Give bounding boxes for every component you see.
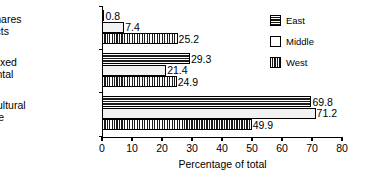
x-axis-tick (131, 137, 132, 141)
bar-value-label: 69.8 (312, 97, 332, 108)
legend-label-west: West (286, 57, 307, 68)
bar-middle-2 (102, 108, 316, 119)
x-axis-tick-label: 70 (297, 142, 327, 154)
bar-value-label: 7.4 (125, 22, 140, 33)
legend-label-middle: Middle (286, 36, 314, 47)
category-label-1: Rents for fixedmoney rental (0, 57, 33, 80)
bar-east-2 (102, 96, 311, 107)
bar-value-label: 24.9 (178, 77, 198, 88)
x-axis-tick-label: 30 (177, 142, 207, 154)
y-axis-tick (99, 49, 103, 50)
x-axis-tick (311, 137, 312, 141)
x-axis-tick (281, 137, 282, 141)
category-label-2: Not on agriculturalschedule (0, 100, 33, 123)
bar-chart: Rents for sharesof products Rents for fi… (0, 0, 374, 186)
legend-swatch-middle-icon (270, 36, 281, 47)
bar-west-2 (102, 119, 252, 130)
x-axis-tick (191, 137, 192, 141)
bar-east-0 (102, 10, 104, 21)
bar-value-label: 0.8 (105, 11, 120, 22)
legend-item-east: East (270, 10, 370, 31)
x-axis-tick (341, 137, 342, 141)
legend-item-west: West (270, 52, 370, 73)
category-label-line: Not on agricultural (0, 100, 33, 112)
bar-west-0 (102, 33, 178, 44)
bar-value-label: 49.9 (253, 120, 273, 131)
x-axis-tick-label: 80 (327, 142, 357, 154)
x-axis-tick-label: 0 (87, 142, 117, 154)
x-axis-tick (161, 137, 162, 141)
category-label-line: schedule (0, 112, 33, 124)
bar-middle-0 (102, 22, 124, 33)
legend: East Middle West (270, 10, 370, 73)
y-axis-tick (99, 92, 103, 93)
bar-value-label: 25.2 (179, 34, 199, 45)
legend-swatch-west-icon (270, 57, 281, 68)
bar-value-label: 71.2 (317, 108, 337, 119)
y-axis-tick (99, 6, 103, 7)
category-label-0: Rents for sharesof products (0, 14, 33, 37)
category-label-line: money rental (0, 69, 33, 81)
legend-label-east: East (286, 15, 305, 26)
x-axis-tick (101, 137, 102, 141)
x-axis-title: Percentage of total (102, 158, 343, 170)
bar-value-label: 29.3 (191, 54, 211, 65)
bar-east-1 (102, 53, 190, 64)
bar-middle-1 (102, 65, 166, 76)
x-axis-tick-label: 40 (207, 142, 237, 154)
bar-west-1 (102, 76, 177, 87)
x-axis-tick-label: 20 (147, 142, 177, 154)
x-axis-tick (221, 137, 222, 141)
bar-value-label: 21.4 (167, 65, 187, 76)
x-axis-tick-label: 50 (237, 142, 267, 154)
category-label-line: of products (0, 26, 33, 38)
legend-item-middle: Middle (270, 31, 370, 52)
legend-swatch-east-icon (270, 15, 281, 26)
x-axis-tick-label: 60 (267, 142, 297, 154)
x-axis-tick-label: 10 (117, 142, 147, 154)
y-axis-tick (99, 136, 103, 137)
x-axis-tick (251, 137, 252, 141)
